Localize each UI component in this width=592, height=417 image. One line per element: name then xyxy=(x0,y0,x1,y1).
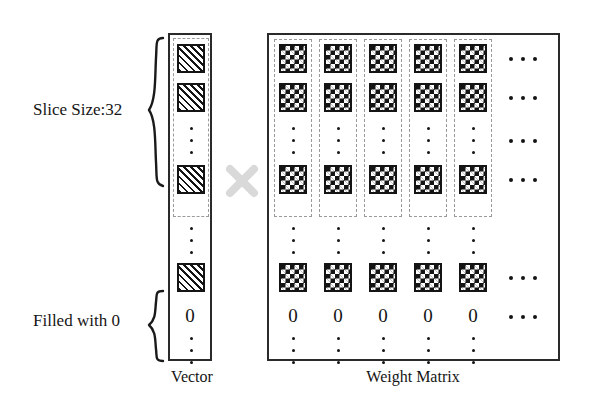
matrix-cell-checkerboard xyxy=(324,44,352,73)
vector-cell-hatched xyxy=(177,44,205,73)
matrix-cell-ellipsis xyxy=(291,337,295,364)
matrix-cell-checkerboard xyxy=(369,263,397,292)
vector-container: 0 xyxy=(168,33,212,361)
matrix-cell-ellipsis xyxy=(471,227,475,254)
matrix-cell-zero: 0 xyxy=(453,306,493,325)
matrix-cell-checkerboard xyxy=(459,165,487,194)
vector-cell-ellipsis xyxy=(189,127,193,154)
matrix-cell-ellipsis xyxy=(426,337,430,364)
matrix-cell-checkerboard xyxy=(459,263,487,292)
matrix-cell-checkerboard xyxy=(324,263,352,292)
matrix-cell-ellipsis xyxy=(336,337,340,364)
matrix-cell-ellipsis xyxy=(381,127,385,154)
matrix-row-overflow-ellipsis xyxy=(509,276,537,280)
matrix-cell-checkerboard xyxy=(414,165,442,194)
matrix-cell-checkerboard xyxy=(369,83,397,112)
matrix-cell-checkerboard xyxy=(279,83,307,112)
vector-cell-hatched xyxy=(177,83,205,112)
vector-cell-hatched xyxy=(177,263,205,292)
matrix-cell-checkerboard xyxy=(279,263,307,292)
matrix-cell-checkerboard xyxy=(414,44,442,73)
vector-cell-ellipsis xyxy=(189,337,193,364)
slice-size-label: Slice Size:32 xyxy=(33,101,122,118)
matrix-cell-checkerboard xyxy=(369,44,397,73)
matrix-cell-checkerboard xyxy=(369,165,397,194)
matrix-row-overflow-ellipsis xyxy=(509,57,537,61)
matrix-cell-ellipsis xyxy=(291,227,295,254)
matrix-cell-ellipsis xyxy=(426,127,430,154)
matrix-cell-ellipsis xyxy=(381,337,385,364)
matrix-cell-ellipsis xyxy=(471,337,475,364)
matrix-cell-zero: 0 xyxy=(318,306,358,325)
vector-cell-ellipsis xyxy=(189,227,193,254)
slice-size-brace xyxy=(145,36,165,188)
matrix-cell-checkerboard xyxy=(414,83,442,112)
vector-cell-hatched xyxy=(177,165,205,194)
filled-with-zero-label: Filled with 0 xyxy=(33,312,120,329)
matrix-cell-ellipsis xyxy=(381,227,385,254)
diagram-canvas: Slice Size:32 Filled with 0 0 Vector xyxy=(0,0,592,417)
matrix-cell-checkerboard xyxy=(279,44,307,73)
matrix-row-overflow-ellipsis xyxy=(509,139,537,143)
matrix-row-overflow-ellipsis xyxy=(509,96,537,100)
matrix-cell-zero: 0 xyxy=(273,306,313,325)
matrix-cell-ellipsis xyxy=(336,127,340,154)
matrix-cell-ellipsis xyxy=(336,227,340,254)
vector-caption: Vector xyxy=(166,369,218,385)
matrix-row-overflow-ellipsis xyxy=(509,178,537,182)
weight-matrix-container: 0 0 0 0 0 xyxy=(267,33,560,361)
matrix-cell-checkerboard xyxy=(459,83,487,112)
weight-matrix-caption: Weight Matrix xyxy=(330,369,496,385)
matrix-cell-zero: 0 xyxy=(408,306,448,325)
filled-with-zero-brace xyxy=(145,289,165,363)
matrix-cell-ellipsis xyxy=(291,127,295,154)
matrix-row-overflow-ellipsis xyxy=(509,315,537,319)
matrix-cell-ellipsis xyxy=(426,227,430,254)
matrix-cell-checkerboard xyxy=(459,44,487,73)
matrix-cell-ellipsis xyxy=(471,127,475,154)
matrix-cell-checkerboard xyxy=(324,165,352,194)
matrix-cell-zero: 0 xyxy=(363,306,403,325)
vector-cell-zero: 0 xyxy=(170,306,210,325)
matrix-cell-checkerboard xyxy=(414,263,442,292)
matrix-cell-checkerboard xyxy=(324,83,352,112)
multiply-icon xyxy=(224,163,260,199)
matrix-cell-checkerboard xyxy=(279,165,307,194)
